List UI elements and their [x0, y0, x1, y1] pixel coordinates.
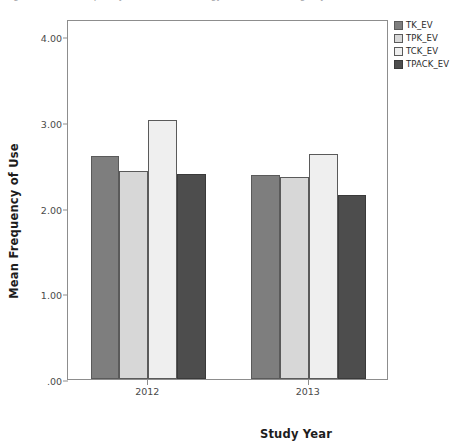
y-tick-label: 1.00: [41, 290, 68, 301]
x-axis-title: Study Year: [260, 427, 332, 441]
y-axis-title: Mean Frequency of Use: [7, 143, 21, 299]
legend-swatch-icon: [394, 60, 403, 69]
legend-item-TK_EV[interactable]: TK_EV: [394, 19, 449, 31]
legend-swatch-icon: [394, 21, 403, 30]
y-tick-label: 4.00: [41, 33, 68, 44]
x-tick-mark: [147, 380, 148, 385]
bar-TPK_EV-2013: [280, 177, 309, 379]
x-tick-label-2013: 2013: [296, 386, 320, 397]
y-tick-label: 3.00: [41, 118, 68, 129]
legend-swatch-icon: [394, 34, 403, 43]
legend-swatch-icon: [394, 47, 403, 56]
y-tick-label: 2.00: [41, 204, 68, 215]
bar-TK_EV-2012: [91, 156, 120, 379]
bar-TK_EV-2013: [251, 175, 280, 379]
y-tick-label: .00: [47, 376, 68, 387]
bar-TPACK_EV-2013: [338, 195, 367, 379]
bar-TPK_EV-2012: [119, 171, 148, 379]
chart-plot-area: [68, 21, 387, 379]
legend-item-label: TPACK_EV: [406, 59, 449, 69]
x-tick-label-2012: 2012: [135, 386, 159, 397]
legend-item-TCK_EV[interactable]: TCK_EV: [394, 45, 449, 57]
bar-TCK_EV-2012: [148, 120, 177, 379]
chart-legend: TK_EVTPK_EVTCK_EVTPACK_EV: [394, 19, 449, 70]
legend-item-label: TPK_EV: [406, 33, 438, 43]
chart-plot-frame: Mean Frequency of Use Study Year .001.00…: [67, 20, 388, 380]
legend-item-label: TCK_EV: [406, 46, 438, 56]
legend-item-TPK_EV[interactable]: TPK_EV: [394, 32, 449, 44]
x-tick-mark: [308, 380, 309, 385]
legend-item-TPACK_EV[interactable]: TPACK_EV: [394, 58, 449, 70]
figure-caption-text: Figure 4. Mean frequency of use of techn…: [6, 0, 387, 1]
figure-caption-strip: Figure 4. Mean frequency of use of techn…: [0, 0, 464, 11]
legend-item-label: TK_EV: [406, 20, 433, 30]
bar-TCK_EV-2013: [309, 154, 338, 379]
bar-TPACK_EV-2012: [177, 174, 206, 379]
